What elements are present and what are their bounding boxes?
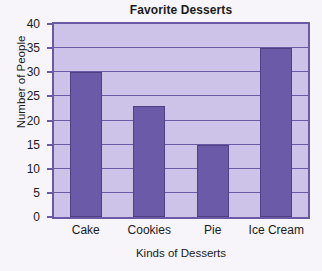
bar-chart-figure: Favorite Desserts Number of People 05101… xyxy=(0,0,322,271)
bar xyxy=(197,145,229,217)
y-axis-title: Number of People xyxy=(15,17,27,147)
y-tick-mark xyxy=(47,144,52,146)
bar xyxy=(70,72,102,217)
y-tick-mark xyxy=(47,23,52,25)
bars-layer xyxy=(54,24,308,217)
y-tick-mark xyxy=(47,168,52,170)
y-tick-label: 20 xyxy=(14,115,40,127)
y-tick-label: 30 xyxy=(14,66,40,78)
x-tick-label: Pie xyxy=(181,223,245,237)
y-tick-label: 5 xyxy=(14,187,40,199)
plot-area xyxy=(52,22,310,219)
bar xyxy=(133,106,165,217)
chart-title: Favorite Desserts xyxy=(52,3,310,17)
x-tick-label: Cookies xyxy=(118,223,182,237)
y-tick-mark xyxy=(47,216,52,218)
x-axis-title: Kinds of Desserts xyxy=(52,247,310,259)
y-tick-mark xyxy=(47,120,52,122)
y-tick-label: 40 xyxy=(14,18,40,30)
bar xyxy=(260,48,292,217)
y-tick-mark xyxy=(47,47,52,49)
y-tick-mark xyxy=(47,71,52,73)
y-tick-label: 10 xyxy=(14,163,40,175)
y-tick-mark xyxy=(47,95,52,97)
y-tick-label: 25 xyxy=(14,90,40,102)
y-tick-label: 0 xyxy=(14,211,40,223)
y-tick-mark xyxy=(47,192,52,194)
x-tick-label: Cake xyxy=(54,223,118,237)
y-tick-label: 35 xyxy=(14,42,40,54)
y-tick-label: 15 xyxy=(14,139,40,151)
x-tick-label: Ice Cream xyxy=(245,223,309,237)
